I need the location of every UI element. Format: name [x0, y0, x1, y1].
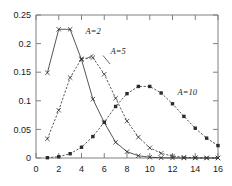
y-tick-label: 0.2 — [18, 39, 31, 49]
data-point — [194, 127, 197, 130]
y-tick-label: 0.15 — [13, 67, 31, 77]
x-tick-label: 8 — [124, 164, 129, 174]
x-tick-label: 6 — [102, 164, 107, 174]
data-point — [57, 155, 60, 158]
series-label-a10: A=10 — [177, 87, 198, 97]
series-label-a5: A=5 — [110, 46, 126, 56]
x-tick-label: 0 — [33, 164, 38, 174]
chart-figure: 0 0.05 0.1 0.15 0.2 0.25 0 2 4 6 8 10 12… — [0, 0, 232, 186]
y-tick-label: 0.25 — [13, 10, 31, 20]
data-point — [137, 85, 140, 88]
data-point — [148, 85, 151, 88]
x-tick-label: 12 — [167, 164, 177, 174]
data-point — [216, 144, 219, 147]
x-tick-label: 10 — [145, 164, 155, 174]
data-point — [46, 156, 49, 159]
y-tick-label: 0.05 — [13, 125, 31, 135]
poisson-distribution-chart: 0 0.05 0.1 0.15 0.2 0.25 0 2 4 6 8 10 12… — [0, 0, 232, 186]
data-point — [91, 135, 94, 138]
x-tick-label: 2 — [56, 164, 61, 174]
data-point — [80, 146, 83, 149]
y-tick-label: 0 — [26, 153, 31, 163]
series-label-a2: A=2 — [84, 26, 101, 36]
data-point — [125, 92, 128, 95]
data-point — [103, 121, 106, 124]
data-point — [171, 102, 174, 105]
data-point — [68, 152, 71, 155]
data-point — [159, 91, 162, 94]
data-point — [182, 115, 185, 118]
data-point — [205, 136, 208, 139]
x-tick-label: 4 — [79, 164, 84, 174]
data-point — [114, 105, 117, 108]
x-tick-label: 16 — [213, 164, 223, 174]
y-tick-label: 0.1 — [18, 96, 31, 106]
x-tick-label: 14 — [190, 164, 200, 174]
